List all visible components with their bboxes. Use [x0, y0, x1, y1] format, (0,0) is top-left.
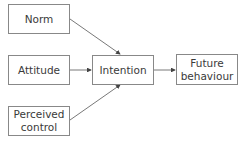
- node-attitude: Attitude: [8, 55, 70, 85]
- node-label-line2: behaviour: [181, 70, 234, 83]
- node-label-line1: Future: [190, 57, 223, 70]
- node-future-behaviour: Future behaviour: [176, 54, 238, 85]
- node-label-line2: control: [21, 121, 57, 134]
- edge-perceived-intention: [70, 85, 120, 120]
- node-label: Attitude: [18, 64, 60, 77]
- node-intention: Intention: [92, 55, 154, 85]
- node-label: Intention: [99, 64, 146, 77]
- node-label-line1: Perceived: [14, 108, 65, 121]
- diagram-canvas: Norm Attitude Perceived control Intentio…: [0, 0, 241, 142]
- node-label: Norm: [25, 13, 54, 26]
- edge-norm-intention: [70, 19, 120, 54]
- node-perceived-control: Perceived control: [8, 106, 70, 136]
- node-norm: Norm: [8, 4, 70, 34]
